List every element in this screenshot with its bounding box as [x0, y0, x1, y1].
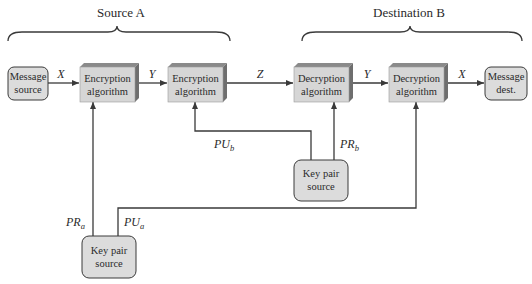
- svg-text:Key pair: Key pair: [303, 168, 340, 179]
- svg-text:Encryption: Encryption: [84, 73, 131, 84]
- svg-text:dest.: dest.: [496, 84, 516, 95]
- svg-text:source: source: [307, 181, 335, 192]
- source-a-brace: [8, 26, 230, 41]
- destination-b-brace: [302, 26, 522, 41]
- label-pu-b: PUb: [213, 137, 234, 153]
- decryption-algorithm-1: Decryption algorithm: [294, 63, 353, 102]
- label-pr-a: PRa: [65, 215, 85, 231]
- key-pair-source-a: Key pair source: [82, 236, 136, 278]
- svg-text:source: source: [14, 84, 42, 95]
- message-dest-node: Message dest.: [485, 67, 527, 100]
- svg-text:source: source: [95, 258, 123, 269]
- svg-text:Decryption: Decryption: [298, 73, 346, 84]
- edge-pu-b: [195, 102, 311, 161]
- label-pr-b: PRb: [339, 137, 359, 153]
- label-x1: X: [56, 67, 65, 81]
- label-z: Z: [257, 67, 264, 81]
- svg-text:algorithm: algorithm: [87, 86, 128, 97]
- label-pu-a: PUa: [123, 215, 144, 231]
- key-pair-source-b: Key pair source: [294, 160, 348, 201]
- svg-text:algorithm: algorithm: [175, 86, 216, 97]
- svg-text:Message: Message: [488, 71, 525, 82]
- label-y2: Y: [364, 67, 372, 81]
- decryption-algorithm-2: Decryption algorithm: [389, 63, 448, 102]
- svg-text:Message: Message: [10, 71, 47, 82]
- message-source-node: Message source: [8, 67, 48, 100]
- label-x2: X: [457, 67, 466, 81]
- diagram-canvas: Source A Destination B Message source En…: [0, 0, 532, 284]
- encryption-algorithm-1: Encryption algorithm: [80, 63, 139, 102]
- edges: [48, 83, 484, 237]
- svg-text:Decryption: Decryption: [393, 73, 441, 84]
- edge-pu-a: [118, 102, 416, 237]
- source-a-title: Source A: [97, 5, 146, 20]
- svg-text:Key pair: Key pair: [91, 245, 128, 256]
- encryption-algorithm-2: Encryption algorithm: [168, 63, 227, 102]
- svg-text:algorithm: algorithm: [396, 86, 437, 97]
- svg-text:algorithm: algorithm: [301, 86, 342, 97]
- destination-b-title: Destination B: [373, 5, 445, 20]
- svg-text:Encryption: Encryption: [172, 73, 219, 84]
- label-y1: Y: [149, 67, 157, 81]
